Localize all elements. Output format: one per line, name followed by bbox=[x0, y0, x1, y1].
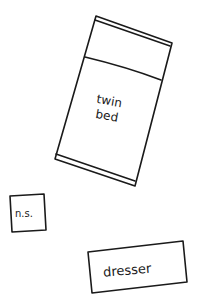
room-layout-diagram: twin bed n.s. dresser bbox=[0, 0, 197, 306]
bed-footboard-line bbox=[56, 154, 135, 181]
dresser-label: dresser bbox=[102, 261, 152, 280]
nightstand-label: n.s. bbox=[15, 208, 33, 219]
twin-bed: twin bed bbox=[55, 16, 172, 186]
bed-label-line2: bed bbox=[95, 107, 120, 125]
pillow-line bbox=[85, 57, 161, 80]
nightstand: n.s. bbox=[10, 194, 46, 232]
bed-headboard-line bbox=[95, 20, 170, 46]
dresser: dresser bbox=[88, 241, 187, 293]
